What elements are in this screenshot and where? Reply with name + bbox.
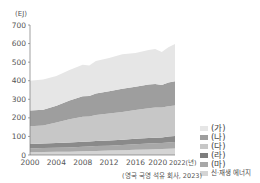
legend-swatch — [200, 162, 208, 167]
legend-swatch — [200, 126, 208, 131]
chart-source: (영국 국영 석유 회사, 2023) — [122, 170, 202, 180]
legend-swatch — [200, 144, 208, 149]
x-tick-label: 2020 — [148, 158, 167, 167]
y-tick-label: 100 — [12, 132, 27, 141]
legend-label: 신·재생 에너지 — [211, 169, 251, 178]
x-tick-label: 2022(년) — [169, 158, 197, 167]
x-tick-label: 2004 — [47, 158, 66, 167]
y-tick-label: 200 — [12, 113, 27, 122]
legend-swatch — [200, 153, 208, 158]
y-tick-label: 400 — [12, 76, 27, 85]
x-tick-label: 2016 — [126, 158, 145, 167]
legend-label: (마) — [211, 160, 226, 169]
y-tick-label: 700 — [12, 21, 27, 30]
chart-legend: (가) (나) (다) (라) (마) 신·재생 에너지 — [200, 124, 251, 178]
y-tick-label: 300 — [12, 95, 27, 104]
chart-areas — [30, 44, 175, 155]
x-tick-label: 2008 — [73, 158, 92, 167]
y-tick-label: 600 — [12, 39, 27, 48]
x-tick-label: 2012 — [100, 158, 119, 167]
legend-item-ma: (마) — [200, 160, 251, 169]
x-tick-label: 2000 — [20, 158, 39, 167]
legend-item-renewable: 신·재생 에너지 — [200, 169, 251, 178]
legend-swatch — [200, 135, 208, 140]
y-tick-label: 500 — [12, 58, 27, 67]
